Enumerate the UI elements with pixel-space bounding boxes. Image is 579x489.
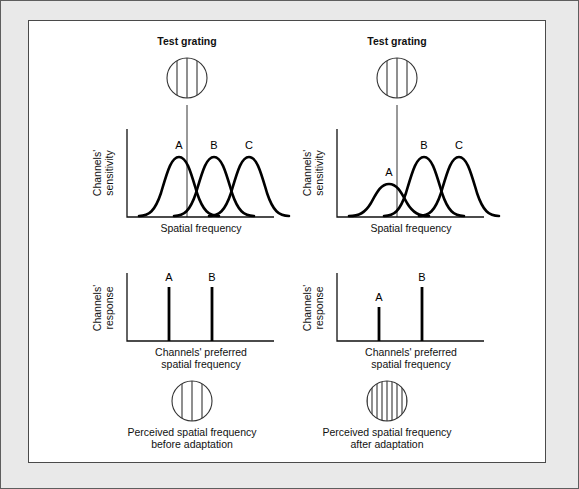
svg-text:sensitivity: sensitivity bbox=[313, 149, 325, 195]
svg-text:Channels': Channels' bbox=[91, 150, 103, 196]
percept-caption-line2-left: before adaptation bbox=[151, 438, 233, 450]
tuning-curve-b-left bbox=[174, 157, 254, 216]
channel-label-a-left: A bbox=[175, 139, 183, 151]
svg-text:response: response bbox=[313, 286, 325, 329]
response-axes-right bbox=[337, 273, 484, 341]
figure-root: Test grating Channel bbox=[0, 0, 579, 489]
channel-label-a-right: A bbox=[385, 166, 393, 178]
tuning-curve-c-left bbox=[209, 157, 289, 216]
percept-caption-line1-right: Perceived spatial frequency bbox=[323, 426, 453, 438]
response-ylabel-right: Channels' response bbox=[301, 285, 325, 331]
sensitivity-xlabel-left: Spatial frequency bbox=[160, 222, 242, 234]
test-grating-title-left: Test grating bbox=[157, 35, 216, 47]
response-label-a-left: A bbox=[165, 271, 173, 283]
sensitivity-ylabel-right: Channels' sensitivity bbox=[301, 149, 325, 196]
tuning-curve-a-left bbox=[139, 157, 219, 216]
test-grating-left bbox=[167, 58, 207, 98]
channel-label-c-right: C bbox=[455, 139, 463, 151]
figure-canvas: Test grating Channel bbox=[29, 21, 544, 461]
sensitivity-xlabel-right: Spatial frequency bbox=[370, 222, 452, 234]
percept-caption-line2-right: after adaptation bbox=[351, 438, 424, 450]
test-grating-right bbox=[377, 58, 417, 98]
svg-text:Channels': Channels' bbox=[301, 285, 313, 331]
percept-grating-right bbox=[367, 381, 407, 421]
figure-inner-panel: Test grating Channel bbox=[28, 20, 546, 463]
response-label-b-right: B bbox=[418, 271, 425, 283]
channel-label-c-left: C bbox=[245, 139, 253, 151]
tuning-curve-a-right bbox=[349, 184, 429, 216]
percept-grating-left bbox=[172, 381, 212, 421]
response-xlabel-line2-right: spatial frequency bbox=[371, 358, 451, 370]
svg-text:response: response bbox=[103, 286, 115, 329]
sensitivity-ylabel-left: Channels' sensitivity bbox=[91, 149, 115, 196]
channel-label-b-left: B bbox=[210, 139, 217, 151]
response-ylabel-left: Channels' response bbox=[91, 285, 115, 331]
response-xlabel-line1-left: Channels' preferred bbox=[155, 346, 247, 358]
response-xlabel-line2-left: spatial frequency bbox=[161, 358, 241, 370]
test-grating-title-right: Test grating bbox=[367, 35, 426, 47]
response-label-a-right: A bbox=[375, 291, 383, 303]
response-axes-left bbox=[127, 273, 274, 341]
svg-text:sensitivity: sensitivity bbox=[103, 149, 115, 195]
tuning-curve-c-right bbox=[419, 157, 499, 216]
response-xlabel-line1-right: Channels' preferred bbox=[365, 346, 457, 358]
response-label-b-left: B bbox=[208, 271, 215, 283]
svg-text:Channels': Channels' bbox=[301, 150, 313, 196]
channel-label-b-right: B bbox=[420, 139, 427, 151]
svg-text:Channels': Channels' bbox=[91, 285, 103, 331]
percept-caption-line1-left: Perceived spatial frequency bbox=[128, 426, 258, 438]
